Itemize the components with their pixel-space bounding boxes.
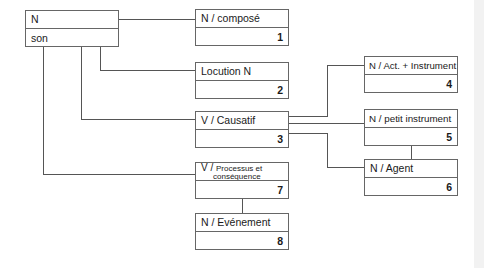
edge-3-4 <box>289 66 364 117</box>
node-label: N / Agent <box>365 160 457 178</box>
node-label: V / Causatif <box>196 112 288 130</box>
node-number: 5 <box>365 128 457 145</box>
node-root-subtitle: son <box>26 29 118 46</box>
node-number: 2 <box>196 81 288 98</box>
node-number: 1 <box>196 28 288 45</box>
node-4: N / Act. + Instrument 4 <box>364 56 458 93</box>
node-number: 3 <box>196 130 288 147</box>
node-number: 8 <box>196 232 288 249</box>
edge-3-6 <box>289 134 364 168</box>
node-3: V / Causatif 3 <box>195 111 289 148</box>
edge-root-3 <box>82 47 196 120</box>
node-7: V / Processus et conséquence 7 <box>195 162 289 199</box>
node-5: N / petit instrument 5 <box>364 109 458 146</box>
node-label: N / composé <box>196 10 288 28</box>
node-label: N / Act. + Instrument <box>365 57 457 75</box>
edge-root-2 <box>101 47 196 71</box>
node-label-line2: conséquence <box>201 173 288 181</box>
node-2: Locution N 2 <box>195 62 289 99</box>
node-number: 6 <box>365 178 457 195</box>
node-label: V / Processus et conséquence <box>196 163 288 181</box>
node-label: N / Evénement <box>196 214 288 232</box>
node-label: N / petit instrument <box>365 110 457 128</box>
node-1: N / composé 1 <box>195 9 289 46</box>
node-root: N son <box>25 10 119 47</box>
node-6: N / Agent 6 <box>364 159 458 196</box>
node-label: Locution N <box>196 63 288 81</box>
node-8: N / Evénement 8 <box>195 213 289 250</box>
node-number: 4 <box>365 75 457 92</box>
node-root-title: N <box>26 11 118 29</box>
node-number: 7 <box>196 181 288 198</box>
edge-root-7 <box>44 47 196 175</box>
